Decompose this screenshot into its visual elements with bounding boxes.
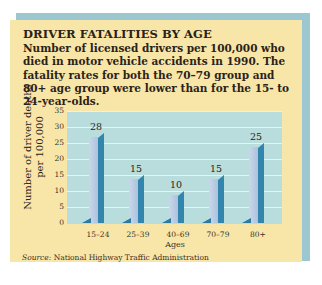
bar-side	[178, 196, 184, 223]
bar-base	[242, 218, 251, 223]
bar-value-label: 15	[203, 163, 229, 174]
x-tick-label: 80+	[238, 230, 278, 239]
figure-title: DRIVER FATALITIES BY AGE	[23, 27, 212, 41]
bar-cap	[218, 175, 224, 180]
bar-value-label: 15	[123, 163, 149, 174]
y-tick-label: 20	[50, 154, 64, 163]
bar-base	[82, 218, 91, 223]
x-tick-label: 15–24	[78, 230, 118, 239]
gridline	[67, 111, 282, 112]
bar-front	[209, 179, 218, 223]
bar-cap	[178, 191, 184, 196]
x-tick-label: 70–79	[198, 230, 238, 239]
bar-base	[162, 218, 171, 223]
y-tick-label: 0	[50, 218, 64, 227]
y-axis-label: Number of driver deaths per 100,000	[22, 82, 46, 212]
bar-value-label: 28	[83, 121, 109, 132]
bar: 28	[89, 121, 104, 223]
y-tick-label: 5	[50, 202, 64, 211]
bar: 15	[209, 163, 224, 223]
x-tick-label: 40–69	[158, 230, 198, 239]
y-tick-label: 10	[50, 186, 64, 195]
bar-side	[218, 180, 224, 223]
bar: 15	[129, 163, 144, 223]
figure-description: Number of licensed drivers per 100,000 w…	[23, 42, 299, 108]
bar-base	[202, 218, 211, 223]
bar-value-label: 10	[163, 179, 189, 190]
y-tick-label: 25	[50, 138, 64, 147]
bar: 25	[249, 131, 264, 223]
bar-front	[129, 179, 138, 223]
bar-front	[89, 137, 98, 223]
y-tick-label: 35	[50, 106, 64, 115]
bar-front	[249, 147, 258, 223]
bar-side	[98, 138, 104, 223]
bar-value-label: 25	[243, 131, 269, 142]
x-tick-label: 25–39	[118, 230, 158, 239]
bar-cap	[98, 133, 104, 138]
bar-side	[258, 148, 264, 223]
bar: 10	[169, 179, 184, 223]
source-note: Source: National Highway Traffic Adminis…	[22, 253, 209, 262]
y-tick-label: 30	[50, 122, 64, 131]
bar-cap	[138, 175, 144, 180]
x-axis-label: Ages	[150, 240, 200, 249]
y-tick-label: 15	[50, 170, 64, 179]
bar-cap	[258, 143, 264, 148]
bar-side	[138, 180, 144, 223]
bar-base	[122, 218, 131, 223]
